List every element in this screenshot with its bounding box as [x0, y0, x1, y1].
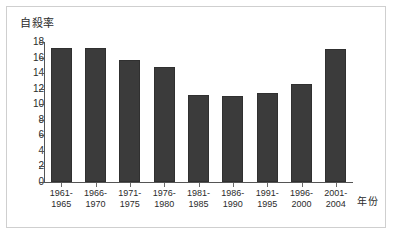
y-axis-tick-mark — [39, 89, 44, 90]
bar — [188, 95, 209, 182]
x-axis-title: 年份 — [357, 193, 378, 208]
bar — [257, 93, 278, 182]
bar — [85, 48, 106, 182]
y-axis-tick-mark — [39, 104, 44, 105]
y-axis-tick-mark — [39, 182, 44, 183]
bar — [325, 49, 346, 182]
x-axis-label-line: 2004 — [313, 199, 359, 210]
y-axis-line — [44, 42, 45, 183]
y-axis-tick-mark — [39, 166, 44, 167]
y-axis-tick-mark — [39, 135, 44, 136]
x-axis-tick-label: 2001-2004 — [313, 188, 359, 210]
x-axis-tick-mark — [61, 183, 62, 187]
bar — [154, 67, 175, 182]
bar-chart: 自殺率 年份 181614121086420 1961-19651966-197… — [0, 0, 398, 244]
x-axis-tick-mark — [302, 183, 303, 187]
y-axis-title: 自殺率 — [20, 14, 55, 30]
y-axis-tick-mark — [39, 151, 44, 152]
bar — [51, 48, 72, 182]
x-axis-label-line: 2001- — [313, 188, 359, 199]
y-axis-tick-mark — [39, 120, 44, 121]
x-axis-tick-mark — [199, 183, 200, 187]
x-axis-tick-mark — [96, 183, 97, 187]
x-axis-tick-mark — [267, 183, 268, 187]
y-axis-tick-mark — [39, 58, 44, 59]
bar — [119, 60, 140, 182]
x-axis-tick-mark — [130, 183, 131, 187]
x-axis-tick-mark — [336, 183, 337, 187]
bar — [291, 84, 312, 182]
x-axis-tick-mark — [164, 183, 165, 187]
bar — [222, 96, 243, 182]
x-axis-tick-mark — [233, 183, 234, 187]
y-axis-tick-mark — [39, 42, 44, 43]
y-axis-tick-mark — [39, 73, 44, 74]
